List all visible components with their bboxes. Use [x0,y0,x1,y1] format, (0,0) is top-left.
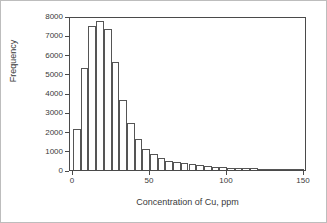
histogram-bar [289,169,297,170]
histogram-bar [235,168,243,170]
histogram-bar [227,168,235,171]
y-axis-title: Frequency [8,21,18,101]
y-tick-label: 8000 [45,12,63,22]
y-tick-label: 1000 [45,147,63,157]
x-tick-mark [303,171,304,175]
histogram-bar [142,149,150,170]
histogram-bars [70,18,305,170]
histogram-bar [104,29,112,170]
histogram-bar [173,162,181,170]
histogram-bar [73,129,81,170]
histogram-bar [135,139,143,170]
histogram-bar [150,154,158,170]
x-axis-title: Concentration of Cu, ppm [69,197,306,207]
y-tick-label: 6000 [45,51,63,61]
x-tick-mark [149,171,150,175]
histogram-bar [265,169,273,170]
x-tick-label: 0 [70,176,74,186]
histogram-bar [212,167,220,170]
x-tick-mark [72,171,73,175]
histogram-bar [196,165,204,170]
histogram-bar [204,166,212,170]
y-tick-label: 7000 [45,31,63,41]
x-tick-mark [226,171,227,175]
histogram-bar [189,164,197,170]
histogram-bar [273,169,281,170]
y-tick-label: 4000 [45,89,63,99]
y-tick: 6000 [45,51,69,61]
histogram-bar [112,62,120,170]
histogram-bar [81,68,89,170]
y-tick-label: 2000 [45,128,63,138]
y-tick: 3000 [45,108,69,118]
y-tick-label: 5000 [45,70,63,80]
y-tick: 4000 [45,89,69,99]
y-tick: 2000 [45,128,69,138]
histogram-bar [296,169,304,170]
x-tick-label: 50 [145,176,154,186]
x-tick-label: 150 [296,176,309,186]
y-tick: 7000 [45,31,69,41]
histogram-bar [88,26,96,170]
y-tick: 5000 [45,70,69,80]
histogram-bar [165,161,173,170]
histogram-bar [242,168,250,170]
histogram-bar [119,100,127,170]
x-tick-label: 100 [219,176,232,186]
histogram-bar [96,21,104,170]
histogram-bar [181,163,189,170]
histogram-bar [250,168,258,170]
y-tick: 1000 [45,147,69,157]
histogram-bar [219,167,227,170]
y-tick: 8000 [45,12,69,22]
plot-area [69,17,306,171]
histogram-bar [127,123,135,170]
histogram-bar [258,169,266,170]
histogram-bar [281,169,289,170]
histogram-figure: 010002000300040005000600070008000 050100… [0,0,327,223]
histogram-bar [158,158,166,170]
y-tick-label: 3000 [45,108,63,118]
